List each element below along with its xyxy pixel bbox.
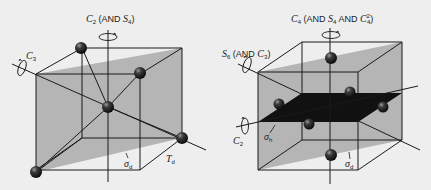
c3-axis-label: C3 bbox=[26, 50, 37, 62]
sigma-d-label: σd bbox=[124, 158, 132, 170]
atom bbox=[345, 87, 356, 98]
td-group-label: Td bbox=[166, 153, 175, 165]
atom bbox=[325, 52, 337, 64]
sigma-d-label: σd bbox=[345, 158, 353, 170]
atom bbox=[176, 132, 188, 144]
rotation-arrow-icon bbox=[322, 31, 340, 39]
atom bbox=[274, 99, 285, 110]
atom bbox=[75, 42, 87, 54]
right-cube-oh: C4 (AND S4 AND C24) S6 (AND C3) C2 σh σd bbox=[222, 13, 420, 184]
atom bbox=[304, 119, 315, 130]
c2-axis-label: C2 bbox=[233, 135, 244, 147]
c4-axis-label: C4 (AND S4 AND C24) bbox=[291, 13, 373, 25]
left-cube-td: C2 (AND S4) C3 σd Td bbox=[12, 13, 206, 182]
symmetry-diagram: C2 (AND S4) C3 σd Td bbox=[0, 0, 431, 190]
rotation-arrow-icon bbox=[16, 59, 28, 77]
s6-axis-label: S6 (AND C3) bbox=[222, 48, 270, 60]
atom bbox=[102, 101, 114, 113]
atom bbox=[378, 102, 389, 113]
atom bbox=[30, 166, 42, 178]
atom bbox=[325, 149, 337, 161]
atom bbox=[134, 67, 146, 79]
c2-axis-label: C2 (AND S4) bbox=[86, 13, 134, 25]
